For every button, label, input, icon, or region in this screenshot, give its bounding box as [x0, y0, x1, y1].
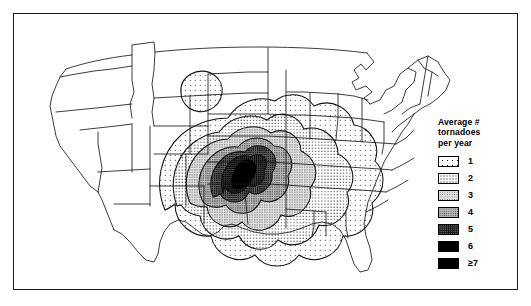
- legend-row-3: 3: [438, 187, 516, 204]
- figure-frame: Average # tornadoes per year 1 2 3 4 5: [13, 13, 518, 290]
- legend-row-4: 4: [438, 204, 516, 221]
- legend-swatch-5: [438, 224, 459, 235]
- contour-level-1-northern-pocket: [181, 71, 222, 112]
- legend-label-4: 4: [468, 208, 473, 217]
- legend-label-3: 3: [468, 191, 473, 200]
- legend-swatch-2: [438, 173, 459, 184]
- legend-label-5: 5: [468, 225, 473, 234]
- legend-label-6: 6: [468, 242, 473, 251]
- legend-row-2: 2: [438, 170, 516, 187]
- legend-label-1: 1: [468, 157, 473, 166]
- legend-label-2: 2: [468, 174, 473, 183]
- legend-swatch-4: [438, 207, 459, 218]
- contour-bands: [160, 71, 383, 266]
- legend-row-6: 6: [438, 238, 516, 255]
- legend-row-7: ≥7: [438, 255, 516, 272]
- legend-swatch-3: [438, 190, 459, 201]
- map-legend: Average # tornadoes per year 1 2 3 4 5: [438, 117, 516, 272]
- map-stage: Average # tornadoes per year 1 2 3 4 5: [14, 14, 519, 291]
- legend-swatch-1: [438, 156, 459, 167]
- legend-swatch-7: [438, 258, 459, 269]
- legend-row-1: 1: [438, 153, 516, 170]
- legend-title: Average # tornadoes per year: [438, 117, 516, 148]
- legend-label-7: ≥7: [468, 259, 478, 268]
- legend-row-5: 5: [438, 221, 516, 238]
- legend-swatch-6: [438, 241, 459, 252]
